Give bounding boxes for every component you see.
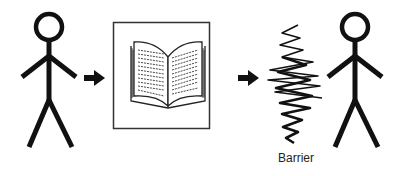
barrier-scribble-icon [268, 25, 322, 143]
arrow-right-icon [84, 70, 105, 86]
barrier-label: Barrier [275, 151, 317, 165]
open-book-icon [131, 42, 205, 108]
communication-diagram [0, 0, 404, 176]
receiver-stick-figure-icon [328, 14, 382, 147]
arrow-right-icon [238, 70, 259, 86]
sender-stick-figure-icon [22, 14, 76, 147]
